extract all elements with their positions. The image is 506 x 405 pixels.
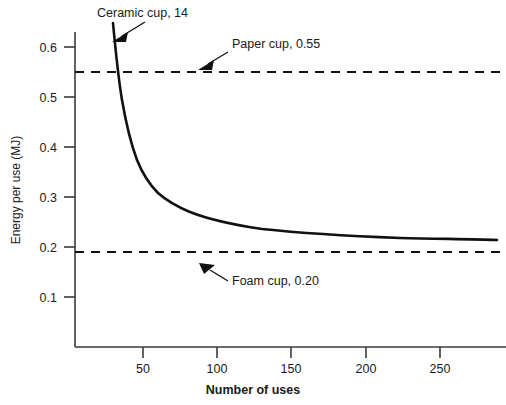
paper-cup-annotation-arrow-head [198,60,214,70]
paper-cup-annotation-label: Paper cup, 0.55 [232,37,320,51]
x-tick-label-100: 100 [207,362,228,376]
y-tick-label-0.1: 0.1 [40,291,57,305]
y-axis-title: Energy per use (MJ) [9,136,23,245]
x-tick-labels-group: 50 100 150 200 250 [136,362,450,376]
x-ticks-group [143,347,440,358]
axes-group [75,32,506,347]
x-axis-title: Number of uses [206,383,301,397]
foam-cup-annotation-arrow-line [210,270,228,281]
y-tick-label-0.2: 0.2 [40,241,57,255]
x-tick-label-150: 150 [281,362,302,376]
ceramic-cup-curve [113,23,497,240]
paper-cup-annotation: Paper cup, 0.55 [198,37,320,70]
foam-cup-annotation-label: Foam cup, 0.20 [232,274,319,288]
y-tick-label-0.5: 0.5 [40,91,57,105]
chart-container: 0.6 0.5 0.4 0.3 0.2 0.1 50 100 150 200 2… [0,0,506,405]
y-ticks-group [64,47,75,297]
x-tick-label-200: 200 [356,362,377,376]
y-tick-label-0.3: 0.3 [40,191,57,205]
ceramic-cup-annotation-label: Ceramic cup, 14 [97,6,188,20]
x-tick-label-250: 250 [430,362,451,376]
y-tick-label-0.6: 0.6 [40,41,57,55]
foam-cup-annotation: Foam cup, 0.20 [199,263,319,288]
energy-per-use-chart: 0.6 0.5 0.4 0.3 0.2 0.1 50 100 150 200 2… [0,0,506,405]
y-tick-label-0.4: 0.4 [40,141,57,155]
ceramic-cup-annotation: Ceramic cup, 14 [97,6,188,42]
x-tick-label-50: 50 [136,362,150,376]
y-tick-labels-group: 0.6 0.5 0.4 0.3 0.2 0.1 [40,41,57,305]
